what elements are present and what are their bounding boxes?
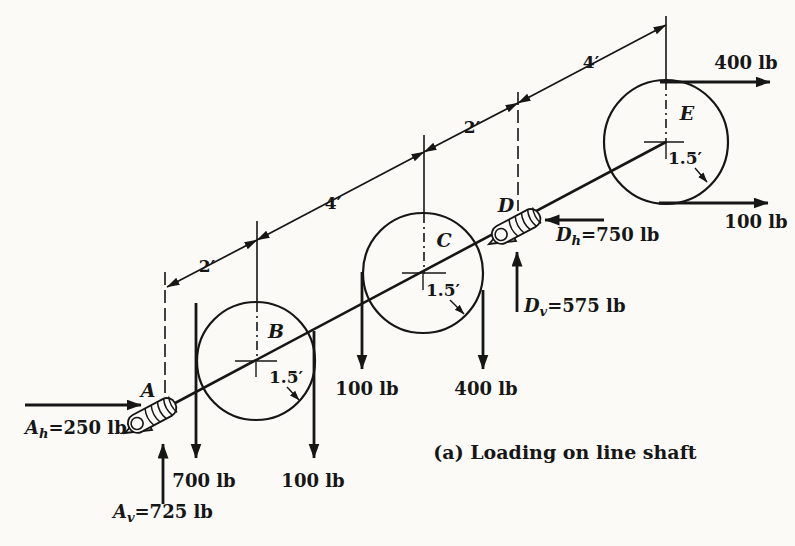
load-B-left-label: 700 lb	[172, 470, 235, 491]
line-shaft-loading-figure: 2′ 4′ 2′ 4′ 1.5′ 1.5′ 1.5′ A B C D E 700…	[0, 0, 795, 546]
station-label-E: E	[679, 102, 695, 124]
load-C-left-label: 100 lb	[335, 378, 398, 399]
radius-arrow-E	[695, 168, 707, 182]
station-label-D: D	[497, 194, 515, 216]
reaction-Ah-label: Ah=250 lb	[23, 417, 127, 441]
dim-label-D-E: 4′	[583, 52, 600, 72]
load-C-right-label: 400 lb	[454, 378, 517, 399]
shaft-line	[147, 142, 666, 418]
figure-caption: (a) Loading on line shaft	[433, 441, 697, 463]
dim-label-B-C: 4′	[325, 193, 342, 213]
load-B-right-label: 100 lb	[281, 470, 344, 491]
load-E-top-label: 400 lb	[714, 52, 777, 73]
station-label-A: A	[139, 379, 156, 401]
dim-label-A-B: 2′	[199, 256, 216, 276]
radius-label-B: 1.5′	[269, 367, 304, 387]
radius-arrow-B	[287, 387, 299, 400]
radius-arrow-C	[450, 300, 464, 314]
radius-label-E: 1.5′	[668, 148, 703, 168]
reaction-Av-label: Av=725 lb	[111, 501, 213, 525]
reaction-Dv-label: Dv=575 lb	[523, 295, 626, 319]
station-label-B: B	[267, 320, 284, 342]
station-label-C: C	[436, 229, 451, 251]
diagram-canvas: 2′ 4′ 2′ 4′ 1.5′ 1.5′ 1.5′ A B C D E 700…	[0, 0, 795, 546]
load-E-bottom-label: 100 lb	[724, 211, 787, 232]
bearing-A-symbol	[125, 395, 180, 436]
dim-label-C-D: 2′	[464, 117, 481, 137]
radius-label-C: 1.5′	[426, 280, 461, 300]
reaction-Dh-label: Dh=750 lb	[555, 224, 659, 248]
